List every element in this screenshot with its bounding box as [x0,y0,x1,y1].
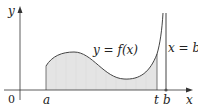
origin-label: 0 [8,93,15,106]
tick-a-label: a [43,93,50,107]
tick-t-label: t [154,93,159,107]
x-axis-label: x [186,93,193,107]
tick-b-label: b [163,93,171,107]
curve-label: y = f(x) [92,43,138,57]
x-axis-arrow-icon [186,88,193,93]
asymptote-label: x = b [168,41,198,55]
improper-integral-diagram: y x 0 a t b y = f(x) x = b [0,0,198,110]
y-axis-label: y [7,4,15,18]
shaded-area [46,52,157,90]
y-axis-arrow-icon [18,6,23,13]
